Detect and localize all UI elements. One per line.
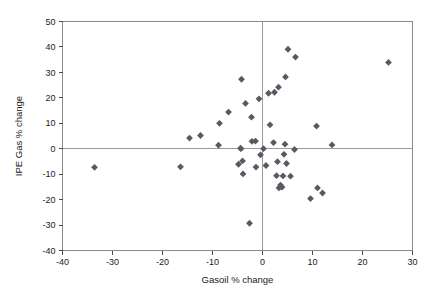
data-point-marker bbox=[270, 139, 277, 146]
data-point-marker bbox=[186, 135, 193, 142]
x-tick-label: -20 bbox=[156, 257, 169, 267]
data-point-marker bbox=[197, 132, 204, 139]
y-tick-label: -10 bbox=[42, 169, 55, 179]
y-tick-label: -30 bbox=[42, 220, 55, 230]
data-point-marker bbox=[271, 89, 278, 96]
data-point-marker bbox=[281, 151, 288, 158]
data-point-marker bbox=[314, 185, 321, 192]
plot-frame bbox=[63, 22, 413, 251]
data-point-marker bbox=[282, 74, 289, 81]
data-point-marker bbox=[238, 76, 245, 83]
data-point-marker bbox=[242, 100, 249, 107]
data-point-marker bbox=[274, 158, 281, 165]
data-point-marker bbox=[283, 160, 290, 167]
data-point-marker bbox=[291, 146, 298, 153]
data-point-marker bbox=[313, 123, 320, 130]
scatter-plot-svg: -40-30-20-1001020304050-40-30-20-1001020… bbox=[0, 0, 443, 297]
y-tick-label: -20 bbox=[42, 195, 55, 205]
y-tick-label: 30 bbox=[45, 68, 55, 78]
y-tick-label: 20 bbox=[45, 93, 55, 103]
data-point-marker bbox=[177, 163, 184, 170]
y-tick-label: 50 bbox=[45, 17, 55, 27]
scatter-chart-figure: -40-30-20-1001020304050-40-30-20-1001020… bbox=[0, 0, 443, 297]
data-point-marker bbox=[263, 162, 270, 169]
x-tick-label: 30 bbox=[407, 257, 417, 267]
data-point-marker bbox=[240, 171, 247, 178]
data-point-marker bbox=[216, 120, 223, 127]
data-point-marker bbox=[292, 54, 299, 61]
x-tick-label: 20 bbox=[357, 257, 367, 267]
x-tick-label: -10 bbox=[206, 257, 219, 267]
data-point-marker bbox=[248, 114, 255, 121]
data-point-marker bbox=[238, 145, 245, 152]
y-tick-label: 40 bbox=[45, 42, 55, 52]
data-point-marker bbox=[253, 164, 260, 171]
y-tick-label: 0 bbox=[50, 144, 55, 154]
data-point-marker bbox=[282, 141, 289, 148]
data-point-marker bbox=[256, 95, 263, 102]
data-point-marker bbox=[285, 46, 292, 53]
data-point-marker bbox=[215, 142, 222, 149]
x-tick-label: -40 bbox=[56, 257, 69, 267]
data-point-marker bbox=[307, 195, 314, 202]
data-point-marker bbox=[225, 109, 232, 116]
y-tick-label: 10 bbox=[45, 118, 55, 128]
y-axis-title: IPE Gas % change bbox=[13, 96, 24, 176]
data-point-marker bbox=[265, 90, 272, 97]
x-tick-label: 0 bbox=[260, 257, 265, 267]
data-point-marker bbox=[280, 173, 287, 180]
y-tick-label: -40 bbox=[42, 246, 55, 256]
data-point-marker bbox=[260, 145, 267, 152]
data-point-marker bbox=[275, 84, 282, 91]
x-axis-title: Gasoil % change bbox=[202, 274, 274, 285]
x-tick-label: 10 bbox=[307, 257, 317, 267]
data-point-marker bbox=[273, 172, 280, 179]
x-tick-label: -30 bbox=[106, 257, 119, 267]
data-point-marker bbox=[329, 142, 336, 149]
data-point-marker bbox=[91, 164, 98, 171]
data-point-marker bbox=[267, 121, 274, 128]
data-point-marker bbox=[287, 173, 294, 180]
data-point-marker bbox=[246, 220, 253, 227]
data-point-marker bbox=[319, 190, 326, 197]
data-point-marker bbox=[385, 59, 392, 66]
